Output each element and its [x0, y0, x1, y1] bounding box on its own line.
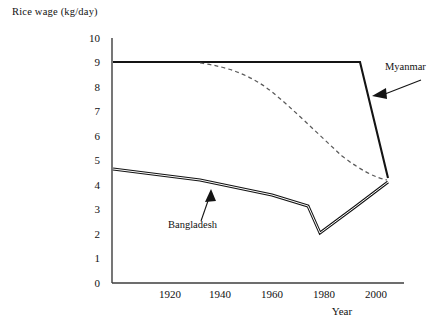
- series-line-bangladesh-inner: [113, 169, 388, 233]
- series-line-myanmar: [113, 62, 388, 178]
- series-line-bangladesh-outer: [113, 169, 388, 233]
- bangladesh-annotation-arrow-head: [205, 189, 216, 202]
- x-tick-2000: 2000: [356, 288, 396, 300]
- y-tick-7: 7: [78, 105, 100, 117]
- y-tick-10: 10: [78, 32, 100, 44]
- y-tick-9: 9: [78, 56, 100, 68]
- myanmar-annotation-arrow-shaft: [385, 80, 421, 94]
- x-tick-1960: 1960: [252, 288, 292, 300]
- y-tick-0: 0: [78, 277, 100, 289]
- y-tick-4: 4: [78, 179, 100, 191]
- x-tick-1920: 1920: [150, 288, 190, 300]
- x-axis-title: Year: [322, 305, 362, 317]
- chart-canvas: [0, 0, 440, 331]
- y-tick-2: 2: [78, 228, 100, 240]
- y-tick-5: 5: [78, 154, 100, 166]
- myanmar-annotation-arrow-head: [372, 88, 387, 99]
- y-tick-8: 8: [78, 81, 100, 93]
- y-tick-6: 6: [78, 130, 100, 142]
- y-tick-3: 3: [78, 203, 100, 215]
- x-tick-1940: 1940: [200, 288, 240, 300]
- series-line-myanmar-dashed: [200, 63, 387, 180]
- x-tick-1980: 1980: [304, 288, 344, 300]
- series-label-myanmar: Myanmar: [385, 61, 426, 72]
- y-tick-1: 1: [78, 252, 100, 264]
- series-label-bangladesh: Bangladesh: [168, 219, 217, 230]
